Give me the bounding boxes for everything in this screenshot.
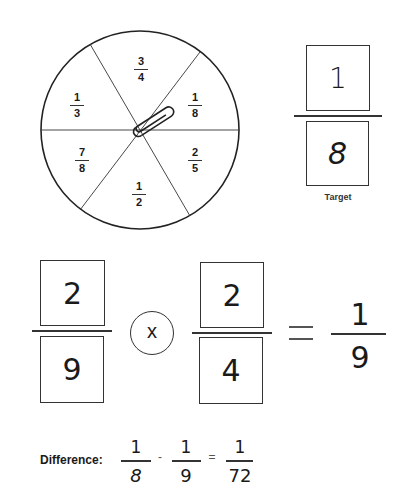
left-numerator: 2 bbox=[63, 276, 82, 311]
difference-b-denominator: 9 bbox=[180, 465, 191, 486]
target-denominator: 8 bbox=[328, 136, 347, 171]
denominator: 8 bbox=[180, 107, 210, 120]
right-denominator-box[interactable]: 4 bbox=[199, 337, 263, 404]
left-numerator-box[interactable]: 2 bbox=[40, 260, 105, 326]
target-numerator-box[interactable]: 1 bbox=[306, 45, 370, 111]
numerator: 1 bbox=[62, 91, 92, 104]
target-denominator-box[interactable]: 8 bbox=[306, 121, 369, 186]
numerator: 3 bbox=[126, 55, 156, 68]
left-denominator-box[interactable]: 9 bbox=[40, 336, 104, 403]
right-numerator: 2 bbox=[222, 278, 241, 313]
difference-b-bar bbox=[172, 460, 201, 462]
difference-a-denominator: 8 bbox=[130, 465, 141, 486]
right-numerator-box[interactable]: 2 bbox=[200, 262, 264, 328]
difference-a-bar bbox=[121, 460, 151, 462]
difference-equals-sign: = bbox=[208, 450, 215, 464]
multiply-operator-button[interactable]: x bbox=[130, 311, 174, 355]
numerator: 2 bbox=[180, 146, 210, 159]
target-label: Target bbox=[325, 192, 352, 202]
right-denominator: 4 bbox=[221, 353, 240, 388]
fraction-bar bbox=[75, 160, 89, 161]
target-fraction-bar bbox=[294, 115, 382, 117]
spinner-section-1-8: 1 8 bbox=[180, 91, 210, 120]
difference-result-bar bbox=[226, 460, 253, 462]
spinner-section-7-8: 7 8 bbox=[67, 146, 97, 175]
fraction-bar bbox=[132, 194, 146, 195]
result-numerator: 1 bbox=[350, 297, 369, 332]
difference-a-numerator: 1 bbox=[131, 437, 142, 457]
fraction-bar bbox=[134, 69, 148, 70]
fraction-bar bbox=[188, 105, 202, 106]
multiply-icon: x bbox=[147, 320, 157, 343]
paperclip-icon[interactable] bbox=[130, 102, 180, 142]
result-denominator: 9 bbox=[350, 340, 369, 375]
minus-sign: - bbox=[158, 450, 162, 464]
numerator: 1 bbox=[180, 91, 210, 104]
denominator: 8 bbox=[67, 162, 97, 175]
left-fraction-bar bbox=[32, 330, 112, 332]
difference-result-denominator: 72 bbox=[229, 465, 252, 486]
difference-b-numerator: 1 bbox=[181, 437, 192, 457]
spinner-section-1-2: 1 2 bbox=[124, 180, 154, 209]
equals-sign-top bbox=[289, 326, 313, 328]
denominator: 4 bbox=[126, 71, 156, 84]
fraction-bar bbox=[70, 105, 84, 106]
target-numerator: 1 bbox=[329, 62, 347, 95]
equals-sign-bottom bbox=[289, 338, 313, 340]
left-denominator: 9 bbox=[62, 352, 81, 387]
denominator: 2 bbox=[124, 196, 154, 209]
spinner-section-2-5: 2 5 bbox=[180, 146, 210, 175]
difference-result-numerator: 1 bbox=[235, 437, 246, 457]
difference-label: Difference: bbox=[40, 453, 103, 467]
denominator: 3 bbox=[62, 107, 92, 120]
fraction-bar bbox=[188, 160, 202, 161]
right-fraction-bar bbox=[192, 332, 272, 334]
numerator: 1 bbox=[124, 180, 154, 193]
spinner-section-1-3: 1 3 bbox=[62, 91, 92, 120]
numerator: 7 bbox=[67, 146, 97, 159]
result-fraction-bar bbox=[331, 333, 386, 335]
denominator: 5 bbox=[180, 162, 210, 175]
spinner-section-3-4: 3 4 bbox=[126, 55, 156, 84]
